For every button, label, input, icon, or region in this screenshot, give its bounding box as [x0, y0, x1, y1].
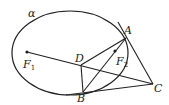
label-d: D — [74, 52, 84, 65]
ellipse-diagram: α F1 F2 A B C D — [0, 0, 169, 105]
focus-f1-dot — [25, 50, 28, 53]
focus-f2-dot — [113, 49, 116, 52]
segment-f1-c — [27, 52, 153, 84]
label-f1: F1 — [22, 58, 35, 72]
curve-label-alpha: α — [28, 7, 36, 20]
label-f2: F2 — [115, 55, 128, 69]
label-a: A — [123, 24, 132, 37]
segment-d-b — [81, 65, 83, 92]
label-c: C — [154, 82, 163, 95]
label-b: B — [76, 92, 85, 105]
